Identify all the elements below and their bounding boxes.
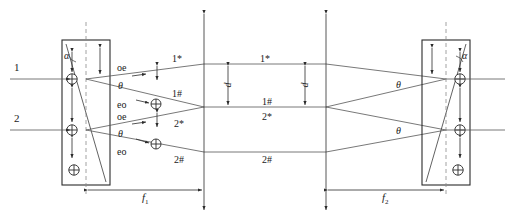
exit-theta-top-label: θ	[396, 80, 401, 90]
f2-subscript: 2	[385, 198, 389, 206]
eo-label-top: eo	[117, 100, 126, 110]
input-ray-2-label: 2	[14, 113, 20, 124]
right-crystal-alpha-label: α	[462, 51, 467, 61]
separation-d-right-label: d	[300, 83, 310, 88]
separation-d-left-label: d	[223, 83, 233, 88]
focal-length-f1-label: f1	[142, 192, 149, 206]
beam-2-hash-label-near: 2#	[174, 155, 184, 165]
beam-2-star-label-far: 2*	[262, 112, 272, 122]
diagram-canvas	[0, 0, 511, 220]
eo-ray-arrowheads	[136, 100, 149, 143]
circle-cross-icon	[151, 99, 161, 109]
oe-ray-arrowheads	[132, 74, 146, 124]
beam-2-hash-label-far: 2#	[262, 155, 272, 165]
beam-1-hash-label-near: 1#	[172, 89, 182, 99]
right-crystal-axis-symbols	[453, 74, 465, 175]
eo-label-bottom: eo	[117, 147, 126, 157]
circle-cross-icon	[453, 165, 463, 175]
output-rays	[446, 79, 505, 130]
beam-1-star-label-near: 1*	[172, 54, 182, 64]
theta-label-top: θ	[118, 81, 123, 91]
oe-label-top: oe	[117, 63, 126, 73]
input-ray-1-label: 1	[14, 62, 20, 73]
split-rays-left	[86, 64, 204, 152]
beam-2-star-label-near: 2*	[174, 119, 184, 129]
circle-cross-icon	[151, 139, 161, 149]
left-crystal-alpha-label: α	[64, 51, 69, 61]
converging-rays-right	[326, 64, 446, 152]
circle-cross-icon	[69, 165, 79, 175]
beam-1-hash-label-far: 1#	[262, 97, 272, 107]
focal-length-f2-label: f2	[382, 192, 389, 206]
left-crystal-axis-symbols	[67, 74, 79, 175]
exit-theta-bottom-label: θ	[396, 126, 401, 136]
parallel-beams	[204, 64, 326, 152]
eo-ray-markers	[151, 99, 161, 149]
beam-1-star-label-far: 1*	[260, 54, 270, 64]
oe-label-bottom: oe	[117, 112, 126, 122]
optical-diagram-figure: 1 2 α α oe θ eo oe θ eo 1* 1# 2* 2# 1* 1…	[0, 0, 511, 220]
f1-subscript: 1	[145, 198, 149, 206]
theta-label-bottom: θ	[118, 129, 123, 139]
